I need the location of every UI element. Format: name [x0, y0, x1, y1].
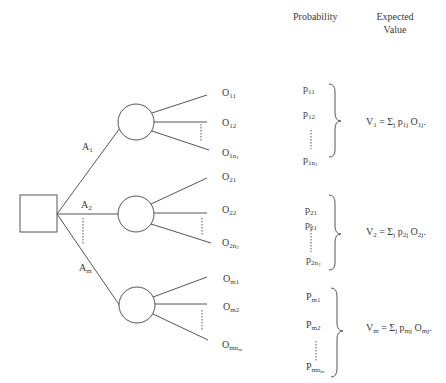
chance-node-1	[118, 104, 154, 140]
probability-label: p12	[303, 109, 315, 121]
expected-value-header: Expected Value	[365, 10, 425, 36]
probability-label: p21	[305, 220, 317, 232]
branch-am	[57, 214, 120, 306]
probability-label: p21	[305, 205, 317, 217]
probability-header: Probability	[293, 10, 337, 23]
outcome-label: O2n2	[222, 238, 239, 250]
outcome-label: O22	[222, 205, 236, 217]
probability-label: p1n1	[303, 155, 318, 167]
outcome-label: Omnm	[222, 340, 242, 352]
expected-value-header-line2: Value	[365, 23, 425, 36]
alternative-label-2: A2	[81, 200, 92, 212]
outcome-label: Om1	[223, 274, 239, 286]
chance-node-m	[119, 287, 155, 323]
probability-label: Pmnm	[306, 362, 324, 374]
alternative-label-1: A1	[82, 142, 93, 154]
outcome-label: O12	[222, 118, 236, 130]
brace-m	[331, 288, 343, 377]
expected-value-formula-2: V2 = Σj p2j O2j.	[366, 226, 426, 239]
outcome-label: O11	[222, 88, 236, 100]
probability-label: Pm1	[306, 292, 321, 304]
decision-node	[20, 195, 57, 232]
probability-label: Pm2	[306, 320, 321, 332]
chance-node-2	[118, 196, 154, 232]
outcome-label: Om2	[223, 302, 239, 314]
brace-2	[329, 195, 341, 270]
expected-value-formula-1: V1 = Σj p1j O1j.	[366, 116, 426, 129]
outcome-label: O21	[222, 172, 236, 184]
probability-label: p11	[303, 84, 315, 96]
expected-value-header-line1: Expected	[365, 10, 425, 23]
brace-1	[329, 84, 341, 157]
expected-value-formula-m: Vm = Σj pmj Omj.	[366, 322, 432, 335]
alternative-label-m: Am	[79, 263, 92, 275]
outcome-label: O1n1	[222, 148, 239, 160]
probability-label: p2n2	[306, 255, 321, 267]
